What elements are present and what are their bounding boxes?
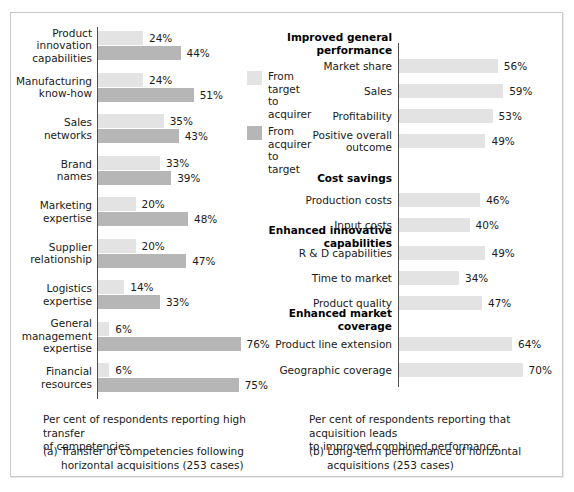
panel-a-bar-light (98, 363, 109, 377)
panel-a-value-light: 20% (142, 239, 165, 253)
panel-b-value: 53% (499, 109, 522, 123)
panel-a-row-label: Brand names (0, 158, 92, 183)
panel-a-value-light: 20% (142, 197, 165, 211)
panel-b-value: 49% (491, 134, 514, 148)
panel-b-caption: (b) Long-term performance of horizontal … (309, 445, 559, 472)
panel-a-row-label: Marketing expertise (0, 199, 92, 224)
panel-b-row-label: Geographic coverage (232, 364, 392, 377)
panel-a-bar-dark (98, 171, 171, 185)
panel-a-value-light: 24% (149, 31, 172, 45)
panel-a-value-dark: 47% (192, 254, 215, 268)
panel-b-value: 46% (486, 193, 509, 207)
panel-b-caption-line2: acquisitions (253 cases) (309, 459, 559, 473)
panel-b-value: 34% (465, 271, 488, 285)
panel-a-value-dark: 51% (200, 88, 223, 102)
panel-b-value: 40% (476, 218, 499, 232)
panel-b-row-label: Input costs (232, 219, 392, 232)
panel-b-group-heading: Improved general performance (232, 31, 392, 56)
panel-b-value: 64% (518, 337, 541, 351)
panel-a-bar-light (98, 31, 143, 45)
panel-b-bar (399, 59, 498, 73)
panel-a-value-light: 24% (149, 73, 172, 87)
panel-a-row-label: Sales networks (0, 116, 92, 141)
panel-b-bar (399, 84, 503, 98)
panel-a-row-label: Logistics expertise (0, 282, 92, 307)
panel-b-group-heading: Enhanced market coverage (232, 307, 392, 332)
panel-a-bar-light (98, 322, 109, 336)
panel-b-value: 70% (529, 363, 552, 377)
panel-b-value: 47% (488, 296, 511, 310)
panel-a-value-light: 35% (170, 114, 193, 128)
panel-a-value-dark: 33% (166, 295, 189, 309)
panel-a-row-label: Supplier relationship (0, 241, 92, 266)
panel-a-caption: (a) Transfer of competencies following h… (43, 445, 293, 472)
panel-b-bar (399, 193, 480, 207)
panel-a-bar-dark (98, 88, 194, 102)
panel-a-value-light: 6% (115, 363, 132, 377)
panel-a-value-light: 14% (130, 280, 153, 294)
panel-b-value: 49% (491, 246, 514, 260)
panel-b-bar (399, 246, 485, 260)
panel-a-caption-line2: horizontal acquisitions (253 cases) (43, 459, 293, 473)
panel-b-row-label: Positive overall outcome (232, 129, 392, 154)
panel-a-value-light: 6% (115, 322, 132, 336)
panel-a-value-dark: 75% (245, 378, 268, 392)
panel-a-value-dark: 43% (185, 129, 208, 143)
panel-b-row-label: Product quality (232, 297, 392, 310)
panel-b-caption-line1: (b) Long-term performance of horizontal (309, 445, 521, 457)
panel-a-value-dark: 39% (177, 171, 200, 185)
panel-a-bar-dark (98, 254, 186, 268)
panel-b-row-label: Time to market (232, 272, 392, 285)
panel-b-bar (399, 271, 459, 285)
panel-b-group-heading: Cost savings (232, 172, 392, 185)
panel-a-bar-light (98, 73, 143, 87)
panel-a-bar-light (98, 239, 136, 253)
chart-panel-b: Improved general performanceCost savings… (289, 13, 564, 476)
panel-a-bar-dark (98, 212, 188, 226)
panel-a-bar-dark (98, 337, 241, 351)
panel-a-value-dark: 48% (194, 212, 217, 226)
panel-a-bar-dark (98, 295, 160, 309)
panel-b-bar (399, 109, 493, 123)
figure-frame: Product innovation capabilities24%44%Man… (10, 12, 563, 477)
panel-b-bar (399, 337, 512, 351)
panel-b-row-label: Profitability (232, 110, 392, 123)
panel-a-row-label: Manufacturing know-how (0, 75, 92, 100)
panel-b-row-label: Production costs (232, 194, 392, 207)
panel-b-value: 59% (509, 84, 532, 98)
panel-a-bar-dark (98, 46, 181, 60)
panel-a-row-label: General management expertise (0, 317, 92, 355)
panel-b-bar (399, 363, 523, 377)
panel-b-value: 56% (504, 59, 527, 73)
legend-swatch-light (247, 71, 262, 85)
panel-a-bar-light (98, 156, 160, 170)
panel-a-row-label: Financial resources (0, 365, 92, 390)
panel-b-bar (399, 218, 470, 232)
panel-a-bar-light (98, 197, 136, 211)
panel-a-value-light: 33% (166, 156, 189, 170)
panel-b-row-label: Market share (232, 60, 392, 73)
panel-a-bar-light (98, 114, 164, 128)
panel-b-row-label: Sales (232, 85, 392, 98)
panel-a-value-dark: 44% (187, 46, 210, 60)
panel-a-bar-dark (98, 378, 239, 392)
panel-b-bar (399, 296, 482, 310)
panel-a-bar-dark (98, 129, 179, 143)
panel-a-bar-light (98, 280, 124, 294)
panel-a-row-label: Product innovation capabilities (0, 27, 92, 65)
panel-b-bar (399, 134, 485, 148)
panel-b-row-label: R & D capabilities (232, 247, 392, 260)
panel-b-row-label: Product line extension (232, 338, 392, 351)
panel-a-caption-line1: (a) Transfer of competencies following (43, 445, 244, 457)
